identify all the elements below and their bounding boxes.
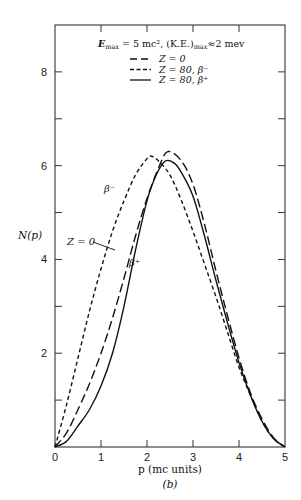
y-tick-label: 8 [41, 66, 47, 78]
legend-item-label: Z = 80, β⁻ [158, 64, 208, 75]
curve-long-dash [55, 151, 285, 447]
x-tick-label: 2 [144, 451, 150, 463]
legend-item-label: Z = 0 [158, 53, 186, 64]
panel-label: (b) [163, 478, 178, 490]
curves [55, 151, 285, 447]
x-tick-label: 1 [98, 451, 104, 463]
y-tick-label: 2 [41, 347, 47, 359]
legend-header: Emax = 5 mc², (K.E.)max≈2 mev [97, 38, 245, 51]
x-tick-label: 3 [190, 451, 196, 463]
legend: Emax = 5 mc², (K.E.)max≈2 mevZ = 0Z = 80… [97, 38, 245, 85]
curve-short-dash [55, 156, 285, 447]
x-tick-label: 0 [52, 451, 58, 463]
beta-spectrum-chart: 0123452468 Emax = 5 mc², (K.E.)max≈2 mev… [0, 0, 301, 500]
annotation-beta-minus: β⁻ [103, 183, 115, 194]
legend-item-label: Z = 80, β⁺ [158, 74, 208, 85]
y-axis-label: N(p) [17, 229, 42, 241]
y-tick-label: 6 [41, 160, 47, 172]
x-tick-label: 5 [282, 451, 288, 463]
x-axis-label: p (mc units) [138, 463, 202, 475]
annotations: β⁻Z = 0β⁺ [66, 183, 140, 268]
annotation-beta-plus: β⁺ [128, 257, 140, 268]
y-tick-label: 4 [41, 253, 47, 265]
x-tick-label: 4 [236, 451, 242, 463]
annotation-z0: Z = 0 [66, 236, 96, 247]
annotation-leader-line [93, 242, 115, 250]
curve-solid [55, 160, 285, 447]
